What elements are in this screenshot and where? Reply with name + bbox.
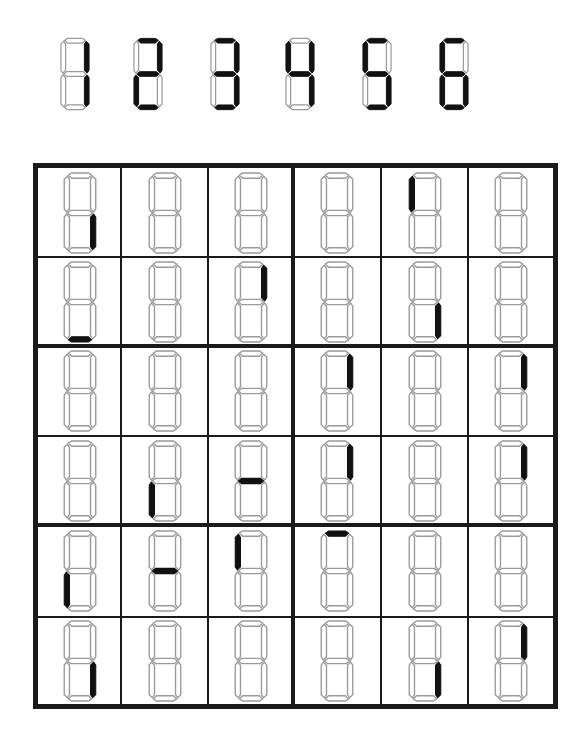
seven-segment-display-icon [60,350,100,432]
segment-bottom-left [64,392,69,428]
segment-bottom-left [409,303,414,339]
segment-top-right-lit [348,354,353,390]
segment-middle [324,658,349,663]
seven-segment-display-icon [231,620,271,702]
grid-cell-r3-c5[interactable] [381,346,468,436]
grid-cell-r5-c2[interactable] [121,525,208,617]
segment-bottom [68,516,91,521]
segment-bottom-left [495,662,500,698]
segment-top [153,351,176,356]
grid-cell-r4-c2[interactable] [121,436,208,525]
segment-middle [64,72,87,77]
segment-bottom [499,516,522,521]
grid-cell-r2-c6[interactable] [468,257,553,346]
segment-top-right-lit [84,41,89,73]
grid-cell-r4-c6[interactable] [468,436,553,525]
segment-bottom-right [436,392,441,428]
segment-bottom-right-lit [463,75,468,107]
segment-bottom-right [91,392,96,428]
segment-bottom [325,337,348,342]
grid-cell-r3-c1[interactable] [38,346,121,436]
grid-cell-r6-c5[interactable] [381,617,468,704]
grid-cell-r3-c2[interactable] [121,346,208,436]
segment-middle [498,478,523,483]
segment-bottom [325,696,348,701]
segment-bottom-left [235,303,240,339]
seven-segment-display-icon [60,620,100,702]
grid-cell-r4-c3[interactable] [208,436,293,525]
segment-middle [324,299,349,304]
segment-middle [498,210,523,215]
grid-cell-r6-c2[interactable] [121,617,208,704]
segment-middle [324,210,349,215]
grid-cell-r1-c6[interactable] [468,168,553,257]
grid-cell-r6-c6[interactable] [468,617,553,704]
segment-bottom-right [176,392,181,428]
segment-middle [412,388,437,393]
segment-middle [498,299,523,304]
segment-middle [498,658,523,663]
segment-middle [412,299,437,304]
segment-top-left [321,444,326,480]
grid-cell-r5-c3[interactable] [208,525,293,617]
legend-digit-4 [285,36,315,112]
segment-middle-lit [443,72,466,77]
segment-bottom [413,248,436,253]
grid-cell-r2-c4[interactable] [293,257,381,346]
segment-bottom-left [235,572,240,608]
grid-cell-r6-c3[interactable] [208,617,293,704]
grid-cell-r1-c4[interactable] [293,168,381,257]
segment-top-left [64,176,69,212]
segment-bottom-left [321,303,326,339]
grid-cell-r4-c5[interactable] [381,436,468,525]
grid-cell-r4-c1[interactable] [38,436,121,525]
grid-cell-r6-c1[interactable] [38,617,121,704]
segment-top [413,531,436,536]
segment-bottom-right-lit [309,75,314,107]
grid-cell-r1-c2[interactable] [121,168,208,257]
segment-top-left [321,534,326,570]
segment-bottom [65,105,86,110]
grid-cell-r3-c4[interactable] [293,346,381,436]
segment-top-left [495,624,500,660]
segment-bottom-lit [367,105,388,110]
grid-cell-r6-c4[interactable] [293,617,381,704]
segment-top-left [495,354,500,390]
segment-top [499,441,522,446]
grid-cell-r5-c5[interactable] [381,525,468,617]
segment-bottom-right [348,392,353,428]
segment-bottom-right [436,572,441,608]
segment-bottom-left-lit [149,482,154,518]
grid-cell-r4-c4[interactable] [293,436,381,525]
grid-cell-r5-c1[interactable] [38,525,121,617]
seven-segment-display-icon [317,530,357,612]
segment-middle-lit [214,72,237,77]
grid-cell-r2-c2[interactable] [121,257,208,346]
segment-bottom [413,426,436,431]
segment-bottom [68,248,91,253]
segment-top-left [134,41,139,73]
segment-bottom-right [348,662,353,698]
seven-segment-display-icon [491,172,531,254]
grid-cell-r3-c3[interactable] [208,346,293,436]
grid-cell-r2-c5[interactable] [381,257,468,346]
grid-cell-r1-c3[interactable] [208,168,293,257]
segment-bottom-left [149,572,154,608]
segment-top-left [61,41,66,73]
segment-bottom-left [321,662,326,698]
segment-middle [412,568,437,573]
segment-bottom [290,105,311,110]
segment-top-left-lit [286,41,291,73]
segment-top-left [235,444,240,480]
grid-cell-r5-c6[interactable] [468,525,553,617]
grid-cell-r1-c5[interactable] [381,168,468,257]
grid-cell-r3-c6[interactable] [468,346,553,436]
segment-top-right-lit [262,265,267,301]
grid-cell-r2-c1[interactable] [38,257,121,346]
grid-cell-r1-c1[interactable] [38,168,121,257]
seven-segment-display-icon [491,350,531,432]
grid-cell-r5-c4[interactable] [293,525,381,617]
segment-top-left [409,265,414,301]
segment-bottom-right [176,662,181,698]
grid-cell-r2-c3[interactable] [208,257,293,346]
